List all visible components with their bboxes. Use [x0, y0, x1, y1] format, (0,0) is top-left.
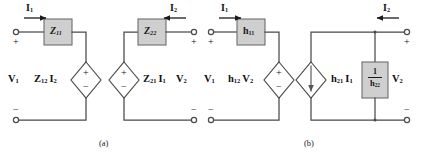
two-port-network-figure: I1 I2 Z11 Z22 V1 V2 Z12I2 Z21I1 + − + − … — [0, 0, 422, 154]
circuit-a-dependent-source-left-label: Z12I2 — [34, 74, 57, 85]
circuit-b-output-top-rail — [311, 32, 405, 62]
circuit-a-right-bottom-wire — [124, 98, 192, 120]
circuit-b-terminal-out-plus — [404, 29, 409, 34]
circuit-a-terminal-in-plus — [13, 29, 18, 34]
circuit-b-source-left-plus: + — [276, 68, 282, 78]
circuit-a-port-out-minus-sign: − — [191, 105, 197, 115]
circuit-b-port-in-minus-sign: − — [208, 105, 214, 115]
circuit-b-terminal-out-minus — [404, 117, 409, 122]
circuit-a-i1-label: I1 — [26, 3, 33, 14]
circuit-a-z11-label: Z11 — [50, 26, 62, 37]
circuit-b-port-out-plus-sign: + — [404, 37, 410, 47]
circuit-b-terminal-in-minus — [208, 117, 213, 122]
circuit-a-source-left-plus: + — [83, 68, 89, 78]
circuit-b-junction-top — [374, 31, 377, 34]
circuit-a-left-bottom-wire — [18, 98, 86, 120]
circuit-a-terminal-out-plus — [191, 29, 196, 34]
circuit-a-i2-label: I2 — [170, 3, 177, 14]
circuit-a-dependent-source-right-label: Z21I1 — [143, 74, 166, 85]
circuit-b-left-node-wire — [265, 32, 279, 62]
circuit-a-terminal-in-minus — [13, 117, 18, 122]
circuit-b-left-bottom-wire — [213, 98, 279, 120]
circuit-b-source-left-minus: − — [276, 82, 282, 92]
circuit-a-port-out-plus-sign: + — [191, 37, 197, 47]
circuit-b-caption: (b) — [304, 138, 314, 148]
circuit-a-v1-label: V1 — [8, 74, 19, 85]
circuit-b-i1-label: I1 — [221, 3, 228, 14]
circuit-b-port-in-plus-sign: + — [208, 37, 214, 47]
circuit-b-v2-label: V2 — [392, 74, 403, 85]
circuit-b-port-out-minus-sign: − — [404, 105, 410, 115]
circuit-b-dependent-source-right-label: h21I1 — [331, 74, 353, 85]
circuit-a-source-right-minus: − — [121, 82, 127, 92]
circuit-a-left-node-wire — [72, 32, 86, 62]
circuit-b-h11-label: h11 — [243, 26, 254, 37]
circuit-b-junction-bottom — [374, 119, 377, 122]
circuit-b-i2-label: I2 — [383, 3, 390, 14]
circuit-a-terminal-out-minus — [191, 117, 196, 122]
circuit-a-right-node-wire — [124, 32, 138, 62]
circuit-b-terminal-in-plus — [208, 29, 213, 34]
circuit-a-caption: (a) — [99, 138, 108, 148]
circuit-b-dependent-source-left-label: h12V2 — [228, 74, 253, 85]
circuit-a-source-right-plus: + — [121, 68, 127, 78]
circuit-a-port-in-plus-sign: + — [13, 37, 19, 47]
circuit-a-source-left-minus: − — [83, 82, 89, 92]
circuit-a-z22-label: Z22 — [144, 26, 156, 37]
circuit-b-v1-label: V1 — [204, 74, 215, 85]
circuit-b-current-source-bottom-wire — [311, 98, 405, 120]
circuit-a-v2-label: V2 — [176, 74, 187, 85]
circuit-a-port-in-minus-sign: − — [13, 105, 19, 115]
circuit-b-shunt-h22-label: 1 h22 — [364, 68, 386, 88]
